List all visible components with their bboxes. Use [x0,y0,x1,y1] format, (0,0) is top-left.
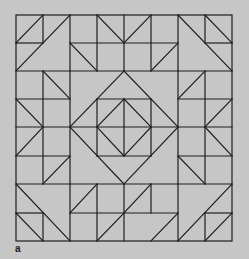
quilt-line [205,213,232,241]
quilt-line [178,71,205,99]
quilt-line [124,184,151,213]
quilt-line [124,99,151,127]
quilt-line [70,184,97,213]
quilt-line [151,43,178,71]
quilt-line [70,43,97,71]
quilt-line-segments [16,15,232,241]
quilt-line [16,127,43,156]
quilt-line [97,15,124,43]
figure-caption-label: a [15,243,21,255]
quilt-line [205,99,232,127]
quilt-line [16,99,43,127]
quilt-line [97,99,124,127]
quilt-line [16,213,43,241]
quilt-line [16,15,43,43]
quilt-line [43,156,70,184]
quilt-line [97,127,124,156]
quilt-line [97,213,124,241]
quilt-line [124,127,151,156]
quilt-line [205,15,232,43]
quilt-line [43,71,70,99]
quilt-line [124,15,151,43]
quilt-line [178,156,205,184]
quilt-block-diagram [0,0,249,259]
quilt-line [151,213,178,241]
quilt-line [205,127,232,156]
